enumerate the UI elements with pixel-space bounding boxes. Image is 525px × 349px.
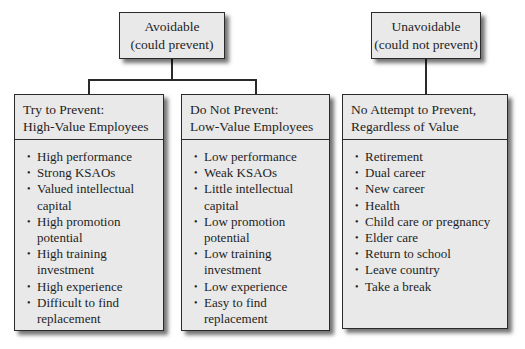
high-value-list: High performance Strong KSAOs Valued int… <box>15 140 163 327</box>
avoidable-subtitle: (could prevent) <box>120 36 224 54</box>
list-item: Low training investment <box>194 246 323 278</box>
list-item: Health <box>355 198 501 214</box>
unavoidable-subtitle: (could not prevent) <box>372 36 480 54</box>
list-item: High promotion potential <box>27 214 157 246</box>
no-attempt-header-line1: No Attempt to Prevent, <box>351 101 499 118</box>
unavoidable-node: Unavoidable (could not prevent) <box>371 12 481 59</box>
low-value-header-line1: Do Not Prevent: <box>190 101 321 118</box>
avoidable-node: Avoidable (could prevent) <box>119 12 225 59</box>
low-value-employees-box: Do Not Prevent: Low-Value Employees Low … <box>181 94 330 331</box>
list-item: Easy to find replacement <box>194 295 323 327</box>
connector-avoidable-stem <box>171 58 173 80</box>
list-item: Low experience <box>194 279 323 295</box>
list-item: High performance <box>27 149 157 165</box>
no-attempt-header: No Attempt to Prevent, Regardless of Val… <box>343 95 507 140</box>
no-attempt-header-line2: Regardless of Value <box>351 118 499 135</box>
low-value-list: Low performance Weak KSAOs Little intell… <box>182 140 329 327</box>
no-attempt-list: Retirement Dual career New career Health… <box>343 140 507 295</box>
high-value-header-line1: Try to Prevent: <box>23 101 155 118</box>
list-item: Valued intellectual capital <box>27 181 157 213</box>
list-item: Little intellectual capital <box>194 181 323 213</box>
unavoidable-title: Unavoidable <box>372 18 480 36</box>
list-item: Low promotion potential <box>194 214 323 246</box>
avoidable-title: Avoidable <box>120 18 224 36</box>
low-value-header-line2: Low-Value Employees <box>190 118 321 135</box>
list-item: New career <box>355 181 501 197</box>
list-item: High experience <box>27 279 157 295</box>
list-item: High training investment <box>27 246 157 278</box>
no-attempt-box: No Attempt to Prevent, Regardless of Val… <box>342 94 508 329</box>
high-value-employees-box: Try to Prevent: High-Value Employees Hig… <box>14 94 164 331</box>
list-item: Child care or pregnancy <box>355 214 501 230</box>
list-item: Leave country <box>355 262 501 278</box>
list-item: Elder care <box>355 230 501 246</box>
list-item: Difficult to find replacement <box>27 295 157 327</box>
list-item: Take a break <box>355 279 501 295</box>
high-value-header-line2: High-Value Employees <box>23 118 155 135</box>
high-value-header: Try to Prevent: High-Value Employees <box>15 95 163 140</box>
list-item: Return to school <box>355 246 501 262</box>
list-item: Weak KSAOs <box>194 165 323 181</box>
list-item: Low performance <box>194 149 323 165</box>
low-value-header: Do Not Prevent: Low-Value Employees <box>182 95 329 140</box>
list-item: Retirement <box>355 149 501 165</box>
connector-to-low-value <box>255 79 257 94</box>
connector-to-high-value <box>88 79 90 94</box>
list-item: Dual career <box>355 165 501 181</box>
connector-avoidable-branch <box>88 79 257 81</box>
connector-unavoidable-stem <box>425 58 427 94</box>
list-item: Strong KSAOs <box>27 165 157 181</box>
